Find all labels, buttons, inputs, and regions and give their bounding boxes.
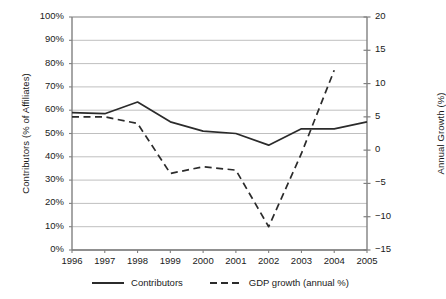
y-left-tick-label: 10% xyxy=(24,220,64,231)
y-right-tick-label: 10 xyxy=(375,77,415,88)
legend-line-solid-icon xyxy=(91,278,125,288)
series-line-contributors xyxy=(72,102,367,145)
y-left-tick-label: 20% xyxy=(24,196,64,207)
legend-line-dashed-icon xyxy=(209,278,243,288)
legend-item-contributors: Contributors xyxy=(91,277,183,288)
axis-tick-marks xyxy=(69,17,371,253)
x-tick-label: 2005 xyxy=(347,255,387,266)
y-left-tick-label: 60% xyxy=(24,103,64,114)
y-right-tick-label: 5 xyxy=(375,110,415,121)
y-left-tick-label: 0% xyxy=(24,243,64,254)
legend-label-contributors: Contributors xyxy=(131,277,183,288)
y-left-tick-label: 30% xyxy=(24,173,64,184)
y-left-tick-label: 70% xyxy=(24,80,64,91)
y-left-tick-label: 80% xyxy=(24,57,64,68)
gridlines xyxy=(72,17,367,250)
y-left-tick-label: 40% xyxy=(24,150,64,161)
chart-legend: Contributors GDP growth (annual %) xyxy=(0,277,440,288)
y-right-tick-label: −15 xyxy=(375,243,415,254)
y-right-tick-label: 20 xyxy=(375,10,415,21)
legend-label-gdp-growth: GDP growth (annual %) xyxy=(249,277,349,288)
y-left-tick-label: 100% xyxy=(24,10,64,21)
legend-item-gdp-growth: GDP growth (annual %) xyxy=(209,277,349,288)
y-right-tick-label: −5 xyxy=(375,176,415,187)
y-right-tick-label: 0 xyxy=(375,143,415,154)
y-right-tick-label: 15 xyxy=(375,43,415,54)
y-right-tick-label: −10 xyxy=(375,210,415,221)
y-left-tick-label: 90% xyxy=(24,33,64,44)
y-left-tick-label: 50% xyxy=(24,127,64,138)
